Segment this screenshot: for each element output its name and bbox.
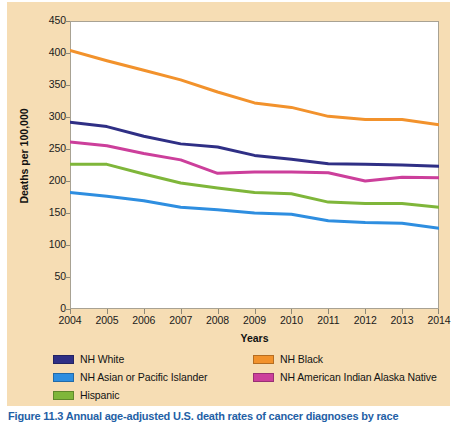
x-axis-tick-label: 2008: [206, 314, 229, 326]
x-axis-tick-label: 2006: [132, 314, 155, 326]
y-axis-tick-label: 250: [49, 142, 66, 154]
x-axis-tick-label: 2004: [59, 314, 82, 326]
legend-label: NH American Indian Alaska Native: [280, 371, 437, 383]
x-axis-tick-label: 2012: [354, 314, 377, 326]
chart-legend: NH WhiteNH BlackNH Asian or Pacific Isla…: [53, 353, 453, 403]
y-axis-title: Deaths per 100,000: [18, 76, 30, 236]
y-axis-tick-labels: 050100150200250300350400450: [32, 21, 66, 309]
legend-swatch: [53, 355, 74, 364]
x-axis-tick-label: 2007: [169, 314, 192, 326]
line-series-group: [70, 21, 439, 309]
line-series: [70, 50, 439, 124]
legend-label: Hispanic: [80, 389, 119, 401]
legend-swatch: [53, 391, 74, 400]
legend-label: NH Black: [280, 353, 323, 365]
legend-item: NH Asian or Pacific Islander: [53, 371, 207, 383]
line-series: [70, 122, 439, 166]
x-axis-title: Years: [70, 332, 439, 344]
x-axis-tick-label: 2011: [317, 314, 339, 326]
line-series: [70, 193, 439, 229]
chart-panel: Deaths per 100,000 050100150200250300350…: [7, 2, 450, 406]
y-axis-tick-label: 50: [55, 270, 66, 282]
x-axis-tick-labels: 2004200520062007200820092010201120122013…: [70, 314, 439, 330]
y-axis-tick-label: 450: [49, 14, 66, 26]
figure-caption: Figure 11.3 Annual age-adjusted U.S. dea…: [8, 409, 449, 425]
x-axis-tick-label: 2009: [243, 314, 266, 326]
y-axis-tick-label: 0: [60, 302, 66, 314]
legend-item: NH White: [53, 353, 124, 365]
y-axis-tick-label: 200: [49, 174, 66, 186]
legend-item: NH American Indian Alaska Native: [253, 371, 437, 383]
x-axis-tick-label: 2014: [428, 314, 451, 326]
x-axis-tick-label: 2013: [391, 314, 414, 326]
line-series: [70, 142, 439, 181]
x-axis-tick-label: 2005: [95, 314, 118, 326]
y-axis-tick-label: 100: [49, 238, 66, 250]
legend-item: NH Black: [253, 353, 323, 365]
y-axis-tick-label: 350: [49, 78, 66, 90]
legend-label: NH White: [80, 353, 124, 365]
x-axis-tick-label: 2010: [280, 314, 303, 326]
plot-wrapper: [70, 21, 439, 309]
legend-swatch: [53, 373, 74, 382]
legend-item: Hispanic: [53, 389, 119, 401]
legend-swatch: [253, 373, 274, 382]
y-axis-tick-label: 400: [49, 46, 66, 58]
legend-label: NH Asian or Pacific Islander: [80, 371, 207, 383]
y-axis-tick-label: 150: [49, 206, 66, 218]
legend-swatch: [253, 355, 274, 364]
figure-container: Deaths per 100,000 050100150200250300350…: [0, 0, 457, 425]
y-axis-tick-label: 300: [49, 110, 66, 122]
